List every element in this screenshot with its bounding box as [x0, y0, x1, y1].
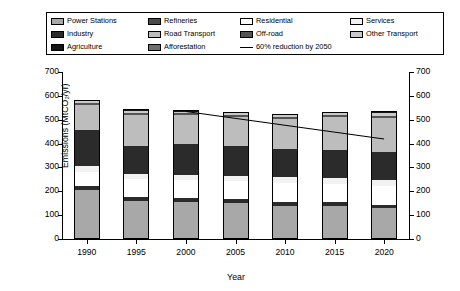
x-tick — [136, 240, 137, 244]
legend-swatch-road-transport — [148, 31, 161, 38]
legend-label-residential: Residential — [256, 17, 293, 25]
x-tick-label-2015: 2015 — [315, 247, 355, 257]
x-tick-label-2020: 2020 — [364, 247, 404, 257]
bar-1995 — [123, 109, 149, 239]
legend-label-afforestation: Afforestation — [164, 43, 205, 51]
legend-label-power-stations: Power Stations — [67, 17, 117, 25]
y-tick — [410, 144, 414, 145]
y-tick-label: 500 — [33, 115, 59, 124]
y-tick-label: 0 — [33, 234, 59, 243]
x-axis-title: Year — [62, 272, 410, 282]
x-tick — [236, 240, 237, 244]
bar-segment-refineries — [371, 152, 397, 180]
bar-segment-residential — [223, 181, 249, 199]
legend-item-afforestation: Afforestation — [148, 43, 240, 51]
x-tick — [384, 240, 385, 244]
legend-swatch-industry — [51, 31, 64, 38]
legend-row: Agriculture Afforestation 60% reduction … — [51, 41, 439, 53]
legend-item-residential: Residential — [240, 17, 350, 25]
x-tick — [87, 240, 88, 244]
legend-label-industry: Industry — [67, 30, 93, 38]
legend-label-services: Services — [366, 17, 394, 25]
y-tick-label: 700 — [33, 67, 59, 76]
legend-swatch-residential — [240, 18, 253, 25]
bar-segment-power-stations — [223, 203, 249, 239]
legend-item-road-transport: Road Transport — [148, 30, 240, 38]
legend-label-off-road: Off-road — [256, 30, 283, 38]
y-tick-label: 400 — [33, 139, 59, 148]
x-tick — [285, 240, 286, 244]
legend-item-industry: Industry — [51, 30, 148, 38]
legend-swatch-other-transport — [350, 31, 363, 38]
legend-label-road-transport: Road Transport — [164, 30, 215, 38]
y-tick — [410, 96, 414, 97]
legend-swatch-off-road — [240, 31, 253, 38]
legend-item-power-stations: Power Stations — [51, 17, 148, 25]
bar-segment-residential — [74, 172, 100, 186]
y-tick — [410, 239, 414, 240]
bar-segment-road-transport — [173, 115, 199, 144]
bar-segment-power-stations — [74, 190, 100, 239]
y-tick — [410, 191, 414, 192]
bar-segment-road-transport — [74, 105, 100, 131]
bar-segment-refineries — [74, 130, 100, 166]
legend-swatch-services — [350, 18, 363, 25]
x-tick-label-2000: 2000 — [166, 247, 206, 257]
bar-segment-road-transport — [223, 117, 249, 147]
bar-segment-power-stations — [322, 206, 348, 239]
y-tick-label: 100 — [416, 210, 442, 219]
x-tick-label-2005: 2005 — [216, 247, 256, 257]
chart-plot-area: Emissions (MtCO₂/yr) Year 01002003004005… — [62, 72, 410, 240]
y-tick-label: 700 — [416, 67, 442, 76]
legend-swatch-power-stations — [51, 18, 64, 25]
legend-item-reduction-target: 60% reduction by 2050 — [240, 43, 400, 51]
legend-label-agriculture: Agriculture — [67, 43, 102, 51]
legend-swatch-agriculture — [51, 44, 64, 51]
bar-segment-power-stations — [123, 201, 149, 239]
bar-segment-power-stations — [272, 206, 298, 239]
bar-2010 — [272, 114, 298, 239]
y-tick — [410, 215, 414, 216]
y-tick-label: 200 — [33, 186, 59, 195]
y-tick-label: 500 — [416, 115, 442, 124]
x-tick — [335, 240, 336, 244]
legend-label-other-transport: Other Transport — [366, 30, 418, 38]
y-tick — [410, 120, 414, 121]
legend-row: Industry Road Transport Off-road Other T… — [51, 28, 439, 40]
bar-segment-refineries — [173, 144, 199, 175]
y-tick-label: 300 — [33, 162, 59, 171]
legend-swatch-refineries — [148, 18, 161, 25]
bar-segment-residential — [173, 180, 199, 198]
bar-segment-road-transport — [123, 115, 149, 146]
y-tick-label: 100 — [33, 210, 59, 219]
x-tick-label-1995: 1995 — [116, 247, 156, 257]
y-tick-label: 300 — [416, 162, 442, 171]
bar-segment-residential — [322, 184, 348, 203]
y-tick-label: 400 — [416, 139, 442, 148]
bar-1990 — [74, 100, 100, 239]
legend-swatch-afforestation — [148, 44, 161, 51]
legend-line-icon-reduction-target — [240, 44, 253, 51]
legend-label-reduction-target: 60% reduction by 2050 — [256, 43, 332, 51]
bar-segment-refineries — [322, 150, 348, 178]
y-tick — [410, 72, 414, 73]
x-tick-label-2010: 2010 — [265, 247, 305, 257]
bar-segment-residential — [371, 186, 397, 205]
bar-2000 — [173, 110, 199, 239]
bar-segment-refineries — [272, 149, 298, 178]
bar-segment-power-stations — [371, 208, 397, 239]
x-tick-label-1990: 1990 — [67, 247, 107, 257]
bar-segment-power-stations — [173, 202, 199, 239]
legend-row: Power Stations Refineries Residential Se… — [51, 15, 439, 27]
bar-segment-residential — [123, 179, 149, 196]
chart-legend: Power Stations Refineries Residential Se… — [46, 12, 444, 55]
y-tick-label: 200 — [416, 186, 442, 195]
bar-segment-refineries — [123, 146, 149, 175]
legend-item-services: Services — [350, 17, 394, 25]
legend-item-agriculture: Agriculture — [51, 43, 148, 51]
bar-segment-road-transport — [371, 118, 397, 152]
legend-label-refineries: Refineries — [164, 17, 197, 25]
legend-item-off-road: Off-road — [240, 30, 350, 38]
legend-item-refineries: Refineries — [148, 17, 240, 25]
legend-item-other-transport: Other Transport — [350, 30, 418, 38]
